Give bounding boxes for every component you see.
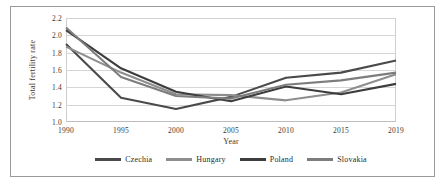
legend-swatch-icon [166, 158, 192, 161]
legend-item-slovakia[interactable]: Slovakia [307, 155, 367, 164]
chart-figure: Total fertility rate 2.22.01.81.61.41.21… [0, 0, 445, 183]
legend-swatch-icon [240, 158, 266, 161]
legend-label: Slovakia [337, 155, 367, 164]
series-line-slovakia [66, 28, 396, 99]
series-lines [66, 18, 396, 122]
x-axis-tick-label: 2010 [278, 126, 294, 135]
legend-item-poland[interactable]: Poland [240, 155, 293, 164]
y-axis-tick-label: 1.4 [52, 83, 62, 92]
y-axis-tick-label: 1.6 [52, 66, 62, 75]
legend-label: Hungary [196, 155, 225, 164]
x-axis-tick-label: 1995 [113, 126, 129, 135]
x-axis-tick-label: 2000 [168, 126, 184, 135]
y-axis-tick-label: 2.0 [52, 31, 62, 40]
x-axis-tick-label: 2005 [223, 126, 239, 135]
legend-label: Poland [270, 155, 293, 164]
plot-area [66, 18, 396, 122]
y-axis-tick-label: 2.2 [52, 14, 62, 23]
x-axis-tick-label: 2015 [333, 126, 349, 135]
legend-item-czechia[interactable]: Czechia [95, 155, 152, 164]
legend-item-hungary[interactable]: Hungary [166, 155, 225, 164]
chart-legend: CzechiaHungaryPolandSlovakia [66, 152, 396, 166]
y-axis-tick-label: 1.8 [52, 48, 62, 57]
x-axis-title: Year [66, 137, 396, 146]
y-axis-title-text: Total fertility rate [28, 40, 37, 100]
legend-label: Czechia [125, 155, 152, 164]
y-axis-tick-label: 1.2 [52, 100, 62, 109]
x-axis-tick-label: 1990 [58, 126, 74, 135]
x-axis-tick-label: 2019 [388, 126, 404, 135]
legend-swatch-icon [307, 158, 333, 161]
y-axis-tick-labels: 2.22.01.81.61.41.21.0 [40, 18, 62, 122]
legend-swatch-icon [95, 158, 121, 161]
y-axis-title: Total fertility rate [26, 18, 38, 122]
